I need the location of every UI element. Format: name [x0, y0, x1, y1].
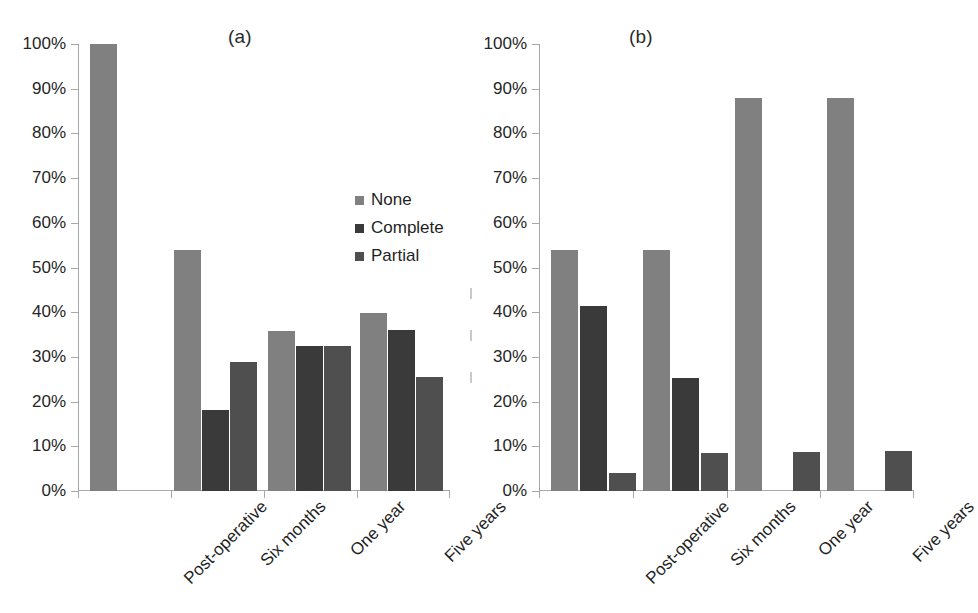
y-axis-tick [71, 446, 78, 447]
x-axis-tick [727, 491, 728, 498]
y-axis-tick [532, 133, 539, 134]
legend-swatch-partial [355, 252, 364, 261]
x-axis-category-label: Six months [726, 497, 800, 571]
legend-label-complete: Complete [371, 218, 444, 238]
y-axis-tick [71, 89, 78, 90]
scan-artifact-dash [470, 288, 472, 299]
y-axis-tick-label: 90% [32, 79, 66, 99]
y-axis-tick [532, 178, 539, 179]
bar-none [643, 250, 670, 491]
y-axis-tick-label: 60% [32, 213, 66, 233]
y-axis-tick-label: 10% [493, 436, 527, 456]
y-axis-tick [71, 268, 78, 269]
x-axis-tick [539, 491, 540, 498]
y-axis-tick-label: 80% [32, 123, 66, 143]
y-axis-tick [532, 44, 539, 45]
scan-artifact-dash [470, 372, 472, 383]
y-axis-tick [71, 133, 78, 134]
y-axis-tick [532, 223, 539, 224]
legend-swatch-none [355, 196, 364, 205]
bar-complete [580, 306, 607, 492]
bar-complete [388, 330, 415, 491]
y-axis-tick [71, 357, 78, 358]
panel-b: (b) 0%10%20%30%40%50%60%70%80%90%100% Po… [462, 0, 935, 613]
y-axis-tick-label: 30% [32, 347, 66, 367]
x-axis-tick [78, 491, 79, 498]
y-axis-tick-label: 40% [32, 302, 66, 322]
legend-label-none: None [371, 190, 412, 210]
bar-partial [230, 362, 257, 491]
panel-b-plot-area: 0%10%20%30%40%50%60%70%80%90%100% [539, 44, 914, 491]
bar-none [268, 331, 295, 491]
y-axis-tick-label: 30% [493, 347, 527, 367]
bar-none [551, 250, 578, 491]
y-axis-tick [532, 402, 539, 403]
x-axis-category-label: Post-operative [642, 497, 734, 589]
bar-complete [202, 410, 229, 491]
y-axis-tick [532, 491, 539, 492]
y-axis-tick [71, 223, 78, 224]
bar-none [90, 44, 117, 491]
y-axis-tick [71, 178, 78, 179]
x-axis-tick [171, 491, 172, 498]
y-axis-tick-label: 80% [493, 123, 527, 143]
y-axis-tick-label: 70% [493, 168, 527, 188]
y-axis-tick-label: 50% [32, 258, 66, 278]
legend-swatch-complete [355, 224, 364, 233]
bar-partial [793, 452, 820, 491]
y-axis-tick-label: 90% [493, 79, 527, 99]
x-axis-category-label: Five years [908, 497, 978, 567]
y-axis-tick [532, 357, 539, 358]
legend-item-complete: Complete [355, 214, 444, 242]
y-axis-tick-label: 70% [32, 168, 66, 188]
y-axis-tick [532, 268, 539, 269]
x-axis-tick [357, 491, 358, 498]
y-axis-tick-label: 0% [41, 481, 66, 501]
y-axis-tick [71, 312, 78, 313]
bar-none [735, 98, 762, 491]
bar-partial [324, 346, 351, 491]
bar-partial [416, 377, 443, 491]
y-axis-tick-label: 50% [493, 258, 527, 278]
x-axis-category-label: One year [346, 497, 410, 561]
bar-none [360, 313, 387, 491]
bar-complete [296, 346, 323, 491]
bar-partial [609, 473, 636, 491]
y-axis-tick [71, 44, 78, 45]
y-axis-tick-label: 20% [493, 392, 527, 412]
y-axis-tick-label: 60% [493, 213, 527, 233]
x-axis-category-label: Post-operative [180, 497, 272, 589]
y-axis-tick-label: 20% [32, 392, 66, 412]
x-axis-tick [913, 491, 914, 498]
bar-none [174, 250, 201, 491]
bar-none [827, 98, 854, 491]
y-axis-tick [71, 491, 78, 492]
y-axis-tick [532, 446, 539, 447]
legend-item-none: None [355, 186, 444, 214]
y-axis-tick-label: 10% [32, 436, 66, 456]
bar-complete [672, 378, 699, 491]
y-axis-tick [532, 89, 539, 90]
panel-a: (a) 0%10%20%30%40%50%60%70%80%90%100% Po… [0, 0, 462, 613]
bar-partial [701, 453, 728, 491]
legend: None Complete Partial [355, 186, 444, 270]
scan-artifact-dash [470, 330, 472, 341]
x-axis-tick [449, 491, 450, 498]
bar-partial [885, 451, 912, 491]
x-axis-tick [820, 491, 821, 498]
x-axis-category-label: One year [814, 497, 878, 561]
x-axis-tick [633, 491, 634, 498]
legend-label-partial: Partial [371, 246, 419, 266]
x-axis-tick [264, 491, 265, 498]
panel-b-bar-groups [539, 44, 914, 491]
y-axis-tick [532, 312, 539, 313]
y-axis-tick-label: 100% [23, 34, 66, 54]
legend-item-partial: Partial [355, 242, 444, 270]
y-axis-tick-label: 0% [502, 481, 527, 501]
y-axis-tick [71, 402, 78, 403]
y-axis-tick-label: 40% [493, 302, 527, 322]
y-axis-tick-label: 100% [484, 34, 527, 54]
